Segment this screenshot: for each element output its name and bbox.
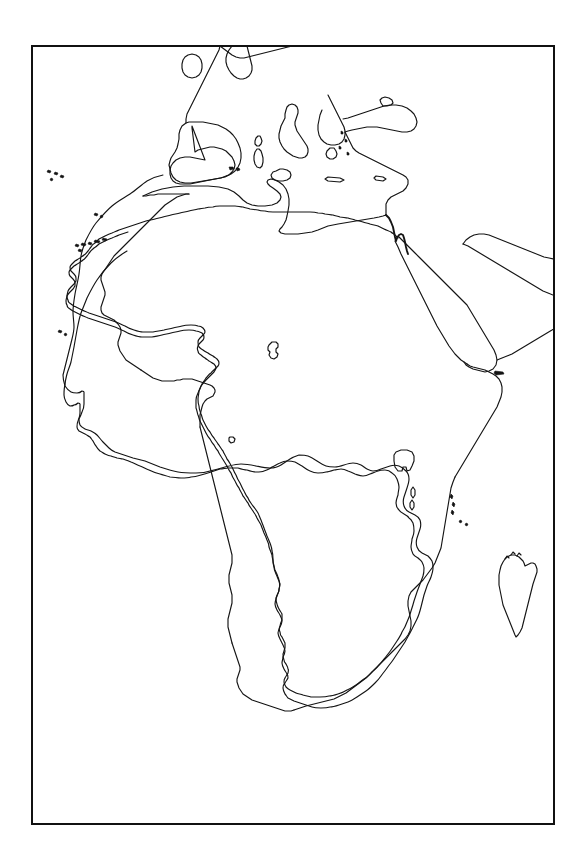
lake-chad-outline	[268, 342, 278, 359]
iberia-coastline	[170, 126, 235, 184]
africa-mainland-coastline	[63, 175, 433, 708]
socotra-island	[494, 371, 504, 375]
comoros-islets	[459, 520, 468, 526]
greece-balkans-outline	[318, 95, 345, 145]
north-africa-coast	[143, 179, 386, 234]
zagros-mesopotamia-coast	[463, 234, 554, 259]
lakes-linework	[268, 342, 415, 510]
crete-outline	[325, 177, 344, 182]
iberia-outline	[169, 122, 241, 183]
cyprus-outline	[374, 176, 386, 181]
great-britain-outline	[226, 46, 252, 79]
east-africa-coast	[294, 477, 455, 710]
bioko-island	[229, 437, 235, 443]
azores-islands	[47, 170, 64, 181]
arabian-peninsula-coast	[399, 237, 497, 372]
arabia-east-coast	[497, 328, 555, 360]
europe-linework	[169, 46, 417, 215]
red-sea-african-coast	[395, 241, 467, 364]
madeira-islands	[94, 213, 103, 218]
great-rift-lakes	[410, 487, 415, 510]
map-page	[0, 0, 587, 865]
ireland-outline	[182, 54, 202, 78]
france-western-europe-coast	[186, 46, 220, 123]
sardinia-outline	[254, 149, 263, 168]
italy-outline	[279, 104, 308, 158]
horn-of-africa-coast	[455, 364, 502, 477]
map-border-frame	[31, 45, 555, 825]
anatolia-turkey-coast	[345, 132, 408, 215]
crimea-outline	[380, 97, 393, 106]
corsica-outline	[255, 136, 262, 146]
lake-victoria-outline	[394, 450, 414, 471]
black-sea-outline	[343, 105, 417, 132]
madagascar-outline	[499, 555, 537, 637]
madagascar-linework	[499, 552, 537, 637]
persian-gulf-coast	[463, 244, 553, 295]
cape-verde-islands	[58, 330, 67, 336]
map-linework	[101, 179, 502, 711]
sicily-outline	[271, 169, 291, 181]
arabia-linework	[399, 234, 555, 375]
west-africa-bulge-coast	[101, 194, 189, 370]
greece-peloponnese	[326, 148, 337, 159]
atlantic-islands	[47, 170, 468, 526]
sinai-and-red-sea-west-coast	[386, 215, 408, 254]
zanzibar-islets	[450, 494, 455, 515]
africa-outline-map[interactable]	[31, 45, 555, 825]
gulf-of-guinea-coast	[141, 370, 215, 427]
